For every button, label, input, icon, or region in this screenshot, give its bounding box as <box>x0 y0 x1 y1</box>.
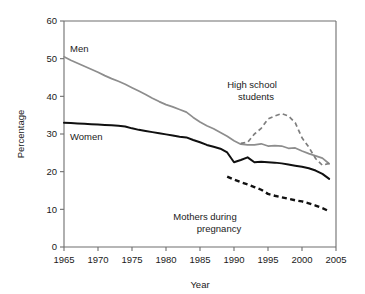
y-axis-ticks: 0102030405060 <box>46 15 64 252</box>
series-label-mothers-line1: Mothers during <box>173 211 236 222</box>
y-tick-label-60: 60 <box>46 15 57 26</box>
y-tick-label-50: 50 <box>46 53 57 64</box>
y-tick-label-20: 20 <box>46 166 57 177</box>
x-tick-label-1980: 1980 <box>155 254 176 265</box>
x-axis-ticks: 196519701975198019851990199520002005 <box>53 247 346 265</box>
y-tick-label-10: 10 <box>46 204 57 215</box>
x-tick-label-1970: 1970 <box>87 254 108 265</box>
series-label-men: Men <box>70 43 88 54</box>
x-tick-label-2000: 2000 <box>291 254 312 265</box>
y-tick-label-0: 0 <box>52 241 57 252</box>
x-tick-label-1975: 1975 <box>121 254 142 265</box>
series-label-high-school-line1: High school <box>227 79 277 90</box>
y-tick-label-30: 30 <box>46 128 57 139</box>
chart-container: 0102030405060 19651970197519801985199019… <box>0 0 365 294</box>
line-chart: 0102030405060 19651970197519801985199019… <box>0 0 365 294</box>
series-label-mothers-line2: pregnancy <box>197 223 242 234</box>
x-tick-label-1965: 1965 <box>53 254 74 265</box>
y-axis-title: Percentage <box>15 110 26 159</box>
x-tick-label-2005: 2005 <box>325 254 346 265</box>
x-axis-title: Year <box>190 279 209 290</box>
series-label-high-school-line2: students <box>238 91 274 102</box>
series-label-women: Women <box>70 131 103 142</box>
x-tick-label-1985: 1985 <box>189 254 210 265</box>
x-tick-label-1990: 1990 <box>223 254 244 265</box>
x-tick-label-1995: 1995 <box>257 254 278 265</box>
y-tick-label-40: 40 <box>46 91 57 102</box>
